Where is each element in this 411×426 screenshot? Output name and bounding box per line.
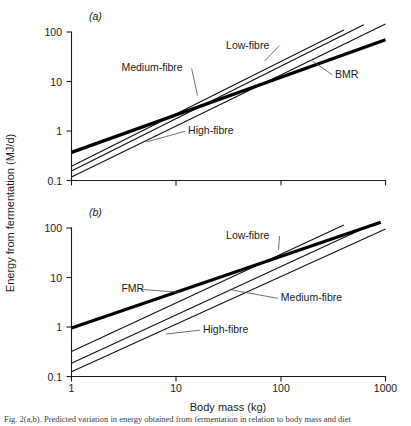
xtick-100: 100 — [272, 382, 290, 394]
xtick-1000: 1000 — [374, 382, 398, 394]
panel-a-ytick-10: 10 — [50, 76, 62, 88]
xtick-10: 10 — [170, 382, 182, 394]
panel-b-y-ticks — [67, 228, 72, 377]
panel-a-ytick-0p1: 0.1 — [47, 175, 62, 187]
series-line-medium-fibre-a — [72, 25, 364, 171]
label-medium-fibre-b: Medium-fibre — [281, 291, 342, 303]
panel-a-ytick-100: 100 — [44, 26, 62, 38]
label-medium-fibre-a: Medium-fibre — [121, 61, 182, 73]
panel-a-x-ticks — [72, 181, 386, 186]
leader-fmr — [141, 289, 180, 292]
leader-medium-fibre-a — [192, 68, 198, 95]
panel-b-x-ticks — [72, 377, 386, 382]
panel-a: (a) 100 10 1 0.1 — [44, 10, 385, 187]
figure-caption-text: Fig. 2(a,b). Predicted variation in ener… — [0, 415, 411, 424]
leader-high-fibre-b — [166, 330, 200, 334]
leader-high-fibre-a — [146, 131, 185, 142]
panel-a-letter: (a) — [89, 10, 102, 22]
label-high-fibre-b: High-fibre — [203, 323, 249, 335]
panel-b-annotations: Low-fibre FMR Medium-fibre High-fibre — [121, 229, 342, 335]
figure-container: Energy from fermentation (MJ/d) (a) 100 … — [0, 0, 411, 426]
leader-medium-fibre-b — [232, 290, 278, 298]
panel-b-x-tick-labels: 1 10 100 1000 — [69, 382, 398, 394]
xtick-1: 1 — [69, 382, 75, 394]
panel-b-ytick-10: 10 — [50, 272, 62, 284]
panel-b-y-tick-labels: 100 10 1 0.1 — [44, 222, 62, 383]
panel-a-y-tick-labels: 100 10 1 0.1 — [44, 26, 62, 187]
panel-b-ytick-100: 100 — [44, 222, 62, 234]
x-axis-title: Body mass (kg) — [190, 401, 266, 413]
panel-a-ytick-1: 1 — [56, 125, 62, 137]
label-low-fibre-b: Low-fibre — [226, 229, 269, 241]
figure-caption: Fig. 2(a,b). Predicted variation in ener… — [0, 415, 411, 426]
label-bmr: BMR — [335, 68, 359, 80]
label-fmr: FMR — [121, 282, 144, 294]
chart-canvas: Energy from fermentation (MJ/d) (a) 100 … — [0, 0, 411, 426]
panel-b-ytick-0p1: 0.1 — [47, 371, 62, 383]
label-low-fibre-a: Low-fibre — [226, 39, 269, 51]
label-high-fibre-a: High-fibre — [188, 124, 234, 136]
y-axis-title: Energy from fermentation (MJ/d) — [4, 134, 16, 292]
leader-low-fibre-b — [279, 236, 280, 250]
series-line-low-fibre-a — [72, 30, 344, 166]
panel-b: (b) 100 10 1 0.1 — [44, 206, 397, 394]
panel-b-letter: (b) — [89, 206, 102, 218]
panel-b-ytick-1: 1 — [56, 321, 62, 333]
panel-a-y-ticks — [67, 32, 72, 181]
